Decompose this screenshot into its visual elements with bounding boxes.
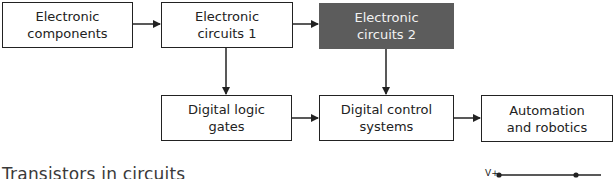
node-electronic-components: Electronic components [2,2,133,48]
node-electronic-circuits-2: Electronic circuits 2 [319,3,454,49]
node-digital-control-systems: Digital control systems [319,95,454,141]
junction-dot [573,172,578,177]
node-digital-logic-gates: Digital logic gates [161,95,292,141]
node-label: Electronic circuits 1 [195,8,259,42]
voltage-label: V+ [485,168,499,178]
node-electronic-circuits-1: Electronic circuits 1 [161,2,293,48]
node-label: Digital control systems [341,101,432,135]
node-label: Electronic circuits 2 [354,9,418,43]
section-heading: Transistors in circuits [2,164,185,179]
node-label: Automation and robotics [507,102,587,136]
node-label: Digital logic gates [188,101,265,135]
node-automation-and-robotics: Automation and robotics [481,95,613,142]
node-label: Electronic components [27,8,107,42]
